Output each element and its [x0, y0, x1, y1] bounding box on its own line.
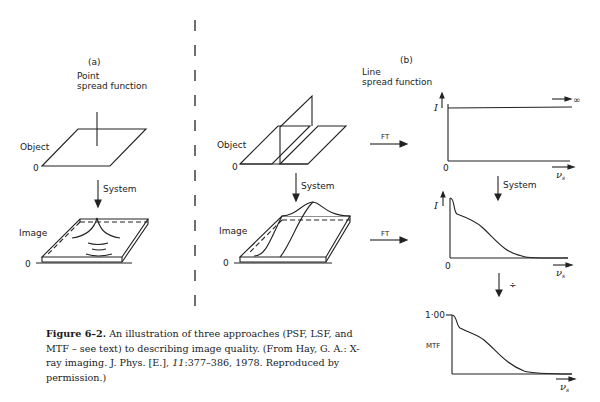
panel-a-label: (a): [88, 57, 101, 67]
mtf-y-label: MTF: [426, 342, 440, 350]
panel-a-title-1: Point: [77, 71, 100, 81]
top-plot-origin: 0: [443, 163, 449, 173]
panel-a-object-label: Object: [20, 142, 50, 152]
ft-arrow-top: [370, 141, 407, 147]
mtf-x-label: νs: [560, 381, 569, 393]
top-plot-x-label: νs: [556, 169, 565, 181]
top-plot-y-label: I: [433, 102, 439, 113]
panel-a-image-label: Image: [19, 228, 48, 238]
panel-b-label: (b): [400, 55, 413, 65]
panel-b-title-2: spread function: [362, 77, 432, 87]
psf-system-arrow: [95, 180, 101, 207]
figure-number: Figure 6–2.: [46, 328, 106, 339]
panel-b-image-label: Image: [219, 226, 248, 236]
divide-symbol: ÷: [509, 280, 517, 290]
middle-plot-origin: 0: [445, 261, 451, 271]
panel-a-system-label: System: [103, 184, 137, 194]
lsf-object-plane: [240, 96, 346, 164]
spectrum-plot-middle: [441, 192, 572, 267]
psf-object-plane: [42, 112, 146, 166]
panel-b-system-label: System: [301, 181, 335, 191]
ft-label-bottom: FT: [381, 230, 390, 238]
ft-label-top: FT: [381, 133, 390, 141]
panel-b-origin-image: 0: [223, 258, 229, 268]
plot-system-arrow: [495, 176, 501, 200]
panel-a-title-2: spread function: [77, 81, 147, 91]
panel-a-origin-object: 0: [33, 163, 39, 173]
panel-b-title-1: Line: [362, 67, 381, 77]
mtf-plot: [446, 315, 575, 381]
top-plot-infinity: ∞: [573, 95, 581, 105]
middle-plot-y-label: I: [433, 200, 439, 211]
panel-b-object-label: Object: [217, 140, 247, 150]
lsf-image-plane: [234, 202, 350, 263]
plot-system-label: System: [503, 180, 537, 190]
psf-image-plane: [36, 218, 148, 263]
lsf-system-arrow: [293, 173, 299, 201]
divide-arrow: [496, 273, 502, 296]
panel-a-origin-image: 0: [25, 259, 31, 269]
caption-volume: 11: [172, 357, 184, 368]
middle-plot-x-label: νs: [556, 267, 565, 279]
figure-caption: Figure 6–2. An illustration of three app…: [46, 327, 371, 385]
panel-b-origin-object: 0: [232, 162, 238, 172]
spectrum-plot-top: [440, 93, 574, 169]
mtf-y-tick: 1·00: [425, 310, 445, 320]
